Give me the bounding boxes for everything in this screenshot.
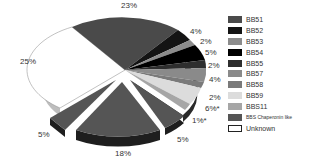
legend-item-bb52: BB52 [228,25,312,36]
swatch [228,49,242,56]
swatch [228,103,242,110]
label-top: 23% [121,1,137,10]
legend-label: BB54 [246,49,263,56]
swatch [228,60,242,67]
label-r4: 2% [208,61,220,70]
label-b2: 18% [115,149,131,158]
legend-item-bb57: BB57 [228,68,312,79]
legend-item-unknown: Unknown [228,123,312,134]
label-r3: 5% [205,48,217,57]
swatch [228,125,242,132]
legend-item-bb58: BB58 [228,79,312,90]
swatch [228,114,242,121]
label-r2: 2% [200,37,212,46]
legend-item-bb54: BB54 [228,47,312,58]
swatch [228,70,242,77]
legend-label: BB52 [246,27,263,34]
legend-label: BBS Chaperonin like [246,114,292,120]
label-r5: 4% [209,75,221,84]
label-r8: 1%* [192,116,207,125]
label-r1: 4% [190,27,202,36]
legend-label: BB57 [246,70,263,77]
legend-item-bbs11: BBS11 [228,101,312,112]
label-b3: 5% [177,135,189,144]
swatch [228,27,242,34]
legend-label: BBS11 [246,103,267,110]
legend-label: BB51 [246,16,263,23]
label-r6: 2% [209,93,221,102]
swatch [228,16,242,23]
legend-label: BB55 [246,60,263,67]
legend: BB51 BB52 BB53 BB54 BB55 BB57 BB58 BB59 … [228,14,312,134]
legend-label: BB59 [246,92,263,99]
legend-label: BB58 [246,81,263,88]
pie-chart [0,0,230,164]
label-r7: 6%* [205,104,220,113]
label-b1: 5% [38,130,50,139]
legend-item-chaperonin: BBS Chaperonin like [228,112,312,123]
swatch [228,92,242,99]
label-left: 25% [20,57,36,66]
legend-label: Unknown [246,125,275,132]
swatch [228,38,242,45]
legend-label: BB53 [246,38,263,45]
legend-item-bb53: BB53 [228,36,312,47]
legend-item-bb59: BB59 [228,90,312,101]
swatch [228,81,242,88]
legend-item-bb51: BB51 [228,14,312,25]
legend-item-bb55: BB55 [228,58,312,69]
